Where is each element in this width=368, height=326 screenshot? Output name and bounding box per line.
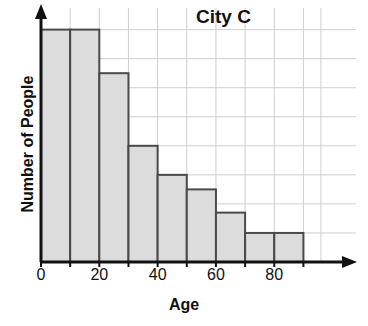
- histogram-plot: [0, 0, 368, 326]
- bar-20-30: [99, 73, 128, 262]
- bar-60-70: [216, 213, 245, 262]
- y-axis-label: Number of People: [19, 54, 37, 234]
- bar-40-50: [158, 175, 187, 262]
- chart-figure: City C Number of People Age 020406080: [0, 0, 368, 326]
- bar-70-80: [245, 233, 274, 262]
- x-axis-label: Age: [0, 296, 368, 314]
- bar-50-60: [187, 189, 216, 262]
- x-tick-label-20: 20: [90, 266, 108, 284]
- bar-30-40: [128, 146, 157, 262]
- x-tick-label-60: 60: [207, 266, 225, 284]
- x-tick-label-0: 0: [37, 266, 46, 284]
- x-tick-label-40: 40: [149, 266, 167, 284]
- bar-0-10: [41, 30, 70, 262]
- chart-title: City C: [196, 6, 251, 28]
- bar-10-20: [70, 30, 99, 262]
- bar-80-90: [274, 233, 303, 262]
- x-tick-label-80: 80: [265, 266, 283, 284]
